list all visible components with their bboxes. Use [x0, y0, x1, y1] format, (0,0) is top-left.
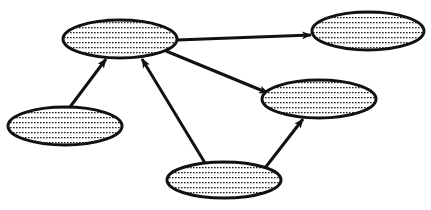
node-a: [63, 20, 177, 58]
node-e: [167, 162, 281, 198]
directed-graph: [0, 0, 431, 210]
edge-a-to-c: [166, 51, 268, 93]
diagram-canvas: [0, 0, 431, 210]
node-c: [262, 80, 376, 118]
edge-a-to-b: [177, 35, 311, 40]
edge-e-to-a: [142, 59, 205, 163]
node-d: [8, 107, 122, 145]
edge-e-to-c: [265, 119, 303, 168]
edge-d-to-a: [70, 59, 106, 107]
node-b: [312, 12, 424, 50]
